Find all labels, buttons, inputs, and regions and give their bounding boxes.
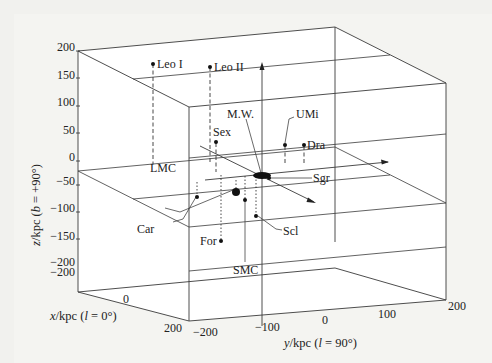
- figure-canvas: Leo I Leo II M.W. UMi Dra Sex LMC Sgr Ca…: [0, 0, 492, 363]
- x-tick-200: 200: [164, 321, 182, 335]
- label-scl: Scl: [283, 224, 299, 238]
- x-tick-0: 0: [123, 292, 129, 306]
- y-tick-200: 200: [448, 299, 466, 313]
- point-car: [195, 195, 199, 199]
- z-tick-0: 0: [69, 150, 75, 164]
- point-smc: [243, 198, 247, 202]
- x-axis-unit: /kpc (: [56, 309, 85, 323]
- y-tick-minus-200: −200: [193, 325, 218, 339]
- point-lmc: [232, 188, 240, 196]
- point-sex: [214, 140, 218, 144]
- point-leo-i: [151, 62, 155, 66]
- point-for: [219, 239, 223, 243]
- z-axis-cond: = +90°): [29, 164, 43, 206]
- z-tick-50: 50: [63, 123, 75, 137]
- label-sgr: Sgr: [313, 171, 330, 185]
- z-tick-minus-50: −50: [56, 174, 75, 188]
- label-umi: UMi: [296, 107, 319, 121]
- label-mw: M.W.: [227, 107, 254, 121]
- z-tick-150: 150: [57, 68, 75, 82]
- point-dra: [302, 143, 306, 147]
- y-tick-minus-100: −100: [255, 320, 280, 334]
- label-sex: Sex: [213, 125, 231, 139]
- y-tick-0: 0: [322, 313, 328, 327]
- point-sgr: [267, 176, 271, 180]
- z-tick-200: 200: [57, 40, 75, 54]
- z-tick-100: 100: [57, 95, 75, 109]
- y-axis-title: y/kpc (l = 90°): [282, 336, 357, 350]
- z-axis-title: z/kpc (b = +90°): [29, 164, 43, 247]
- label-leo-ii: Leo II: [214, 60, 244, 74]
- label-car: Car: [137, 222, 154, 236]
- point-scl: [254, 214, 258, 218]
- z-axis-unit: /kpc (: [29, 212, 43, 241]
- label-smc: SMC: [233, 263, 258, 277]
- label-lmc: LMC: [150, 161, 176, 175]
- label-for: For: [200, 234, 217, 248]
- y-axis-cond: = 90°): [322, 336, 357, 350]
- z-tick-minus-100: −100: [50, 201, 75, 215]
- z-tick-minus-150: −150: [50, 229, 75, 243]
- point-leo-ii: [208, 65, 212, 69]
- y-tick-100: 100: [378, 307, 396, 321]
- label-dra: Dra: [307, 138, 326, 152]
- x-axis-cond: = 0°): [88, 309, 117, 323]
- label-leo-i: Leo I: [157, 57, 183, 71]
- x-axis-title: x/kpc (l = 0°): [49, 309, 117, 323]
- x-tick-minus-200: −200: [50, 265, 75, 279]
- y-axis-unit: /kpc (: [290, 336, 319, 350]
- point-umi: [283, 143, 287, 147]
